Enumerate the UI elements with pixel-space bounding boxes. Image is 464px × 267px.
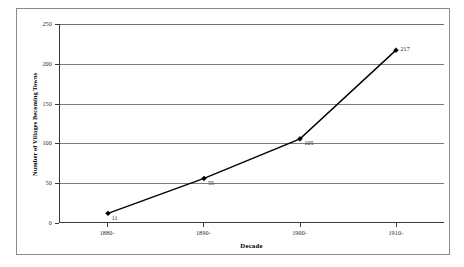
x-tick-3 (396, 223, 397, 227)
data-point-marker-1 (202, 176, 207, 181)
x-tick-2 (300, 223, 301, 227)
y-tick-label-0: 0 (33, 220, 52, 226)
data-point-label-0: 11 (112, 215, 118, 221)
plot-area: 1155105217 (59, 24, 444, 223)
x-tick-label-0: 1880- (87, 230, 127, 236)
y-tick-label-250: 250 (33, 21, 52, 27)
x-axis-title: Decade (212, 242, 292, 249)
chart-screenshot: 050100150200250 Number of Villages Becom… (0, 0, 464, 267)
series-line (108, 50, 396, 213)
x-tick-label-3: 1910- (376, 230, 416, 236)
data-point-label-3: 217 (400, 46, 410, 52)
y-tick-0 (55, 223, 59, 224)
data-point-label-1: 55 (208, 180, 214, 186)
y-tick-label-200: 200 (33, 61, 52, 67)
x-tick-1 (203, 223, 204, 227)
chart-frame: 050100150200250 Number of Villages Becom… (16, 8, 450, 255)
data-point-marker-0 (106, 211, 111, 216)
x-tick-0 (107, 223, 108, 227)
data-point-label-2: 105 (304, 140, 314, 146)
line-series (60, 24, 444, 222)
y-tick-label-50: 50 (33, 180, 52, 186)
x-tick-label-2: 1900- (280, 230, 320, 236)
x-tick-label-1: 1890- (183, 230, 223, 236)
y-axis-title: Number of Villages Becoming Towns (31, 72, 38, 175)
